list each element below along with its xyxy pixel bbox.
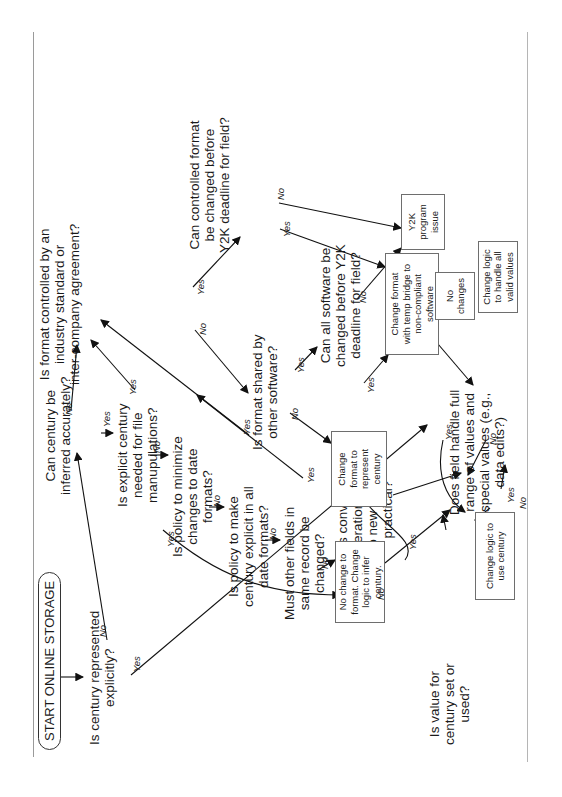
action-y2k-issue: Y2Kprogramissue — [401, 194, 445, 250]
decision-all-software: Can all software bechanged before Y2Kdea… — [318, 244, 363, 367]
no-label-4: No — [151, 441, 162, 453]
decision-inferred-text: Can century beinferred accurately? — [43, 376, 73, 495]
action-y2k-issue-text: Y2Kprogramissue — [406, 204, 441, 239]
decision-full-range-text: Does field handle fullrange of values an… — [447, 390, 507, 515]
decision-all-software-text: Can all software bechanged before Y2Kdea… — [318, 244, 363, 367]
decision-make-explicit-text: Is policy to makecentury explicit in all… — [226, 486, 271, 607]
decision-controlled-changed: Can controlled formatbe changed beforeY2… — [187, 117, 232, 253]
action-change-represent-text: Changeformat torepresentcentury — [336, 449, 382, 489]
decision-minimize: Is policy to minimizechanges to dateform… — [170, 436, 215, 557]
no-label-19: No — [357, 291, 368, 303]
action-use-century: Change logic touse century — [475, 512, 515, 600]
yes-label-22: Yes — [443, 424, 454, 440]
page-border-right — [527, 32, 528, 762]
no-label-8: No — [267, 528, 278, 540]
no-label-3: No — [63, 403, 74, 415]
decision-full-range: Does field handle fullrange of values an… — [447, 390, 507, 515]
decision-minimize-text: Is policy to minimizechanges to dateform… — [170, 436, 215, 557]
decision-shared: Is format shared byother software? — [250, 334, 280, 450]
decision-explicit-needed-text: Is explicit centuryneeded for filemanupu… — [115, 403, 160, 507]
yes-label-5: Yes — [127, 379, 138, 395]
page-border-left — [33, 32, 34, 757]
no-label-10: No — [319, 557, 330, 569]
no-label-6: No — [211, 495, 222, 507]
decision-controlled: Is format controlled by anindustry stand… — [37, 224, 82, 385]
decision-explicit-needed: Is explicit centuryneeded for filemanupu… — [115, 403, 160, 507]
decision-make-explicit: Is policy to makecentury explicit in all… — [226, 486, 271, 607]
decision-controlled-changed-text: Can controlled formatbe changed beforeY2… — [187, 117, 232, 253]
no-label-20: No — [275, 188, 286, 200]
no-label-17: No — [289, 408, 300, 420]
action-handle-all: Change logicto handle allvalid values — [478, 241, 518, 313]
action-handle-all-text: Change logicto handle allvalid values — [481, 249, 516, 304]
start-terminal: START ONLINE STORAGE — [38, 572, 61, 750]
action-change-represent: Changeformat torepresentcentury — [331, 431, 387, 507]
yes-label-11: Yes — [305, 467, 316, 483]
action-no-changes: Nochanges — [435, 272, 475, 320]
yes-label-12: Yes — [407, 534, 418, 550]
yes-label-7: Yes — [165, 531, 176, 547]
action-temp-bridge: Change formatwith temp bridge tonon-comp… — [385, 253, 439, 355]
decision-value-set: Is value forcentury set orused? — [427, 663, 472, 745]
no-label-14: No — [197, 323, 208, 335]
decision-value-set-text: Is value forcentury set orused? — [427, 663, 472, 745]
yes-label-16: Yes — [295, 357, 306, 373]
yes-label-21: Yes — [281, 221, 292, 237]
flowchart-canvas: START ONLINE STORAGEIs century represent… — [35, 35, 525, 765]
yes-label-0: Yes — [131, 656, 142, 672]
decision-controlled-text: Is format controlled by anindustry stand… — [37, 224, 82, 385]
yes-label-15: Yes — [195, 279, 206, 295]
no-label-13: No — [375, 588, 386, 600]
no-label-1: No — [97, 625, 108, 637]
decision-inferred: Can century beinferred accurately? — [43, 376, 73, 495]
action-no-change-infer: No change toformat. Changelogic to infer… — [335, 541, 385, 623]
yes-label-9: Yes — [241, 419, 252, 435]
no-label-23: No — [487, 433, 498, 445]
yes-label-24: Yes — [505, 487, 516, 503]
yes-label-18: Yes — [365, 377, 376, 393]
action-temp-bridge-text: Change formatwith temp bridge tonon-comp… — [389, 264, 435, 344]
action-no-changes-text: Nochanges — [444, 278, 467, 314]
decision-shared-text: Is format shared byother software? — [250, 334, 280, 450]
action-no-change-infer-text: No change toformat. Changelogic to infer… — [337, 549, 383, 614]
yes-label-2: Yes — [101, 411, 112, 427]
action-use-century-text: Change logic touse century — [484, 523, 507, 589]
no-label-25: No — [517, 497, 528, 509]
